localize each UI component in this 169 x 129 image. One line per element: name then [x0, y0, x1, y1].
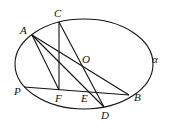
- label-A: A: [19, 24, 27, 36]
- label-C: C: [54, 7, 62, 19]
- label-F: F: [54, 92, 62, 104]
- label-O: O: [82, 53, 90, 65]
- label-P: P: [13, 85, 21, 97]
- label-B: B: [134, 91, 141, 103]
- segment-PB: [24, 87, 129, 95]
- label-E: E: [80, 92, 88, 104]
- ellipse-diagram: A C O B P F E D α: [0, 0, 169, 129]
- segment-AD: [32, 35, 104, 107]
- label-alpha: α: [152, 53, 158, 65]
- label-D: D: [100, 109, 109, 121]
